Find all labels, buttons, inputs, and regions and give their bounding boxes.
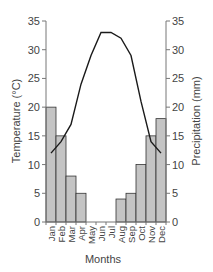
precipitation-bar — [56, 136, 66, 222]
y-tick-label: 25 — [28, 72, 40, 84]
y2-tick-label: 0 — [172, 216, 178, 228]
climate-chart: 05101520253035 05101520253035 JanFebMarA… — [0, 0, 213, 272]
y-tick-label: 0 — [34, 216, 40, 228]
x-axis-title: Months — [85, 253, 122, 265]
precipitation-bar — [156, 119, 166, 222]
left-axis-ticks: 05101520253035 — [28, 15, 46, 228]
y2-tick-label: 30 — [172, 44, 184, 56]
y2-tick-label: 5 — [172, 187, 178, 199]
precipitation-bar — [76, 193, 86, 222]
precipitation-bar — [46, 107, 56, 222]
precipitation-bar — [146, 136, 156, 222]
precipitation-bars — [46, 107, 166, 222]
y2-tick-label: 25 — [172, 72, 184, 84]
y-tick-label: 20 — [28, 101, 40, 113]
y2-tick-label: 35 — [172, 15, 184, 27]
month-ticks: JanFebMarAprMayJunJulAugSepOctNovDec — [46, 222, 167, 244]
y-axis-title: Temperature (°C) — [10, 79, 22, 163]
precipitation-bar — [116, 199, 126, 222]
precipitation-bar — [66, 176, 76, 222]
right-axis-ticks: 05101520253035 — [166, 15, 184, 228]
precipitation-bar — [126, 193, 136, 222]
month-label: Dec — [156, 226, 167, 243]
y2-tick-label: 20 — [172, 101, 184, 113]
y-tick-label: 30 — [28, 44, 40, 56]
y-tick-label: 15 — [28, 130, 40, 142]
y-tick-label: 10 — [28, 159, 40, 171]
y-tick-label: 5 — [34, 187, 40, 199]
y2-tick-label: 15 — [172, 130, 184, 142]
precipitation-bar — [136, 165, 146, 222]
y2-axis-title: Precipitation (mm) — [190, 76, 202, 165]
y2-tick-label: 10 — [172, 159, 184, 171]
temperature-line — [51, 33, 161, 154]
y-tick-label: 35 — [28, 15, 40, 27]
